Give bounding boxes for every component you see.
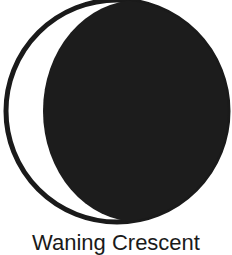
phase-caption: Waning Crescent <box>0 232 232 254</box>
moon-shadow <box>43 0 232 222</box>
